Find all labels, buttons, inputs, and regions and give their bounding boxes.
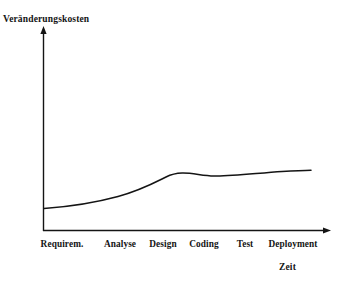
x-tick-label-deployment: Deployment — [268, 239, 317, 249]
x-tick-label-design: Design — [149, 239, 176, 249]
x-tick-label-test: Test — [237, 239, 254, 249]
y-axis-label: Veränderungskosten — [3, 14, 89, 24]
x-tick-label-analyse: Analyse — [104, 239, 136, 249]
cost-of-change-chart: Veränderungskosten Zeit Requirem. Analys… — [0, 0, 338, 284]
x-tick-label-requirements: Requirem. — [41, 239, 84, 249]
x-tick-label-coding: Coding — [189, 239, 219, 249]
x-axis-label: Zeit — [279, 262, 296, 272]
